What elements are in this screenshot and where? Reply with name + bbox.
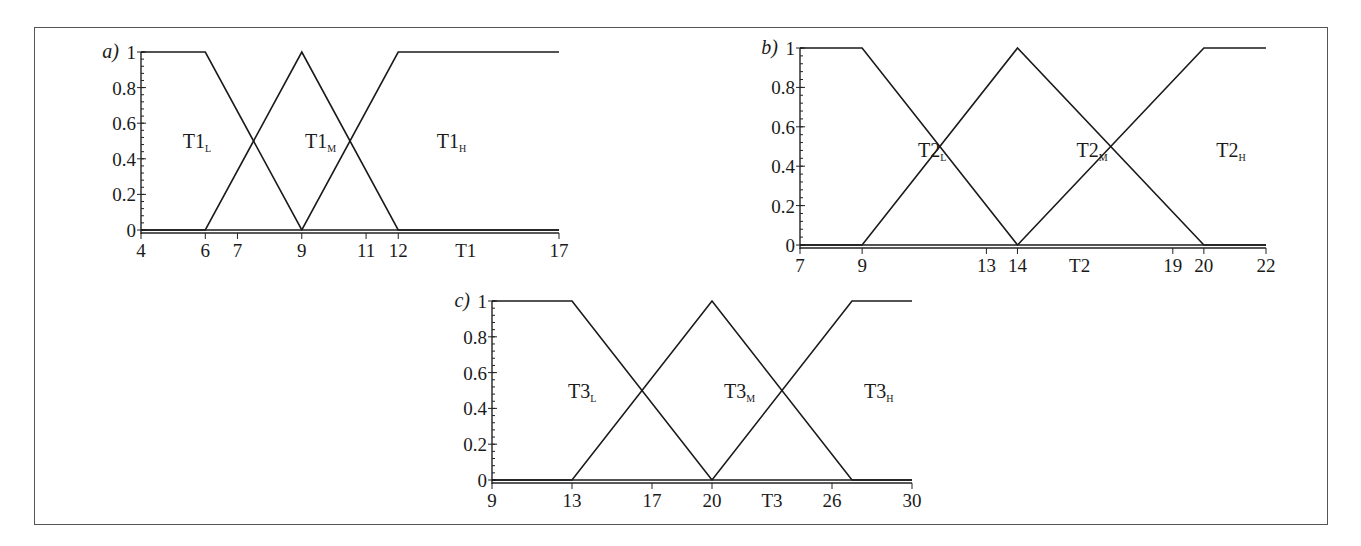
y-tick-label: 0.4 bbox=[112, 149, 136, 170]
x-axis-label: T1 bbox=[455, 240, 476, 261]
x-tick-label: 17 bbox=[550, 240, 569, 261]
x-tick-label: 13 bbox=[977, 255, 996, 276]
y-tick-label: 1 bbox=[478, 291, 488, 312]
series-t2-l bbox=[800, 48, 1266, 245]
membership-function-charts: 00.20.40.60.814679111217T1a)T1LT1MT1H00.… bbox=[0, 0, 1361, 546]
chart-panel-b: 00.20.40.60.81791314192022T2b)T2LT2MT2H bbox=[761, 36, 1275, 276]
y-tick-label: 0.2 bbox=[463, 434, 487, 455]
y-tick-label: 0.6 bbox=[112, 113, 136, 134]
x-axis-label: T3 bbox=[761, 490, 782, 511]
set-label-t3-h: T3H bbox=[864, 380, 893, 404]
y-tick-label: 0.8 bbox=[112, 78, 136, 99]
set-label-t2-h: T2H bbox=[1216, 139, 1245, 163]
panel-label: b) bbox=[761, 36, 778, 59]
panel-label: a) bbox=[102, 40, 119, 63]
y-tick-label: 0 bbox=[478, 470, 488, 491]
y-tick-label: 0.2 bbox=[771, 196, 795, 217]
x-tick-label: 6 bbox=[201, 240, 211, 261]
chart-panel-a: 00.20.40.60.814679111217T1a)T1LT1MT1H bbox=[102, 40, 568, 261]
chart-panel-c: 00.20.40.60.8191317202630T3c)T3LT3MT3H bbox=[454, 289, 921, 511]
y-tick-label: 1 bbox=[786, 38, 796, 59]
set-label-t3-m: T3M bbox=[724, 380, 755, 404]
panel-label: c) bbox=[454, 289, 470, 312]
series-t2-h bbox=[800, 48, 1266, 245]
x-tick-label: 20 bbox=[1194, 255, 1213, 276]
x-tick-label: 22 bbox=[1257, 255, 1276, 276]
x-tick-label: 9 bbox=[297, 240, 307, 261]
y-tick-label: 0.2 bbox=[112, 184, 136, 205]
set-label-t1-h: T1H bbox=[437, 130, 466, 154]
series-t3-m bbox=[492, 301, 912, 480]
y-tick-label: 0 bbox=[127, 220, 137, 241]
series-t3-h bbox=[492, 301, 912, 480]
x-tick-label: 14 bbox=[1008, 255, 1028, 276]
x-tick-label: 13 bbox=[563, 490, 582, 511]
y-tick-label: 0.8 bbox=[771, 77, 795, 98]
x-tick-label: 11 bbox=[357, 240, 375, 261]
x-axis-label: T2 bbox=[1069, 255, 1090, 276]
x-tick-label: 7 bbox=[795, 255, 805, 276]
x-tick-label: 7 bbox=[233, 240, 243, 261]
y-tick-label: 0.4 bbox=[771, 156, 795, 177]
x-tick-label: 19 bbox=[1163, 255, 1182, 276]
x-tick-label: 20 bbox=[703, 490, 722, 511]
y-tick-label: 0.6 bbox=[771, 117, 795, 138]
series-t2-m bbox=[800, 48, 1266, 245]
series-t3-l bbox=[492, 301, 912, 480]
y-tick-label: 0 bbox=[786, 235, 796, 256]
x-tick-label: 26 bbox=[823, 490, 842, 511]
y-tick-label: 0.6 bbox=[463, 363, 487, 384]
set-label-t1-m: T1M bbox=[305, 130, 336, 154]
set-label-t2-m: T2M bbox=[1076, 139, 1107, 163]
x-tick-label: 30 bbox=[903, 490, 922, 511]
y-tick-label: 1 bbox=[127, 42, 137, 63]
set-label-t1-l: T1L bbox=[183, 130, 211, 154]
x-tick-label: 9 bbox=[857, 255, 867, 276]
x-tick-label: 4 bbox=[136, 240, 146, 261]
x-tick-label: 9 bbox=[487, 490, 497, 511]
y-tick-label: 0.8 bbox=[463, 327, 487, 348]
x-tick-label: 12 bbox=[389, 240, 408, 261]
set-label-t3-l: T3L bbox=[568, 380, 596, 404]
y-tick-label: 0.4 bbox=[463, 398, 487, 419]
x-tick-label: 17 bbox=[643, 490, 662, 511]
